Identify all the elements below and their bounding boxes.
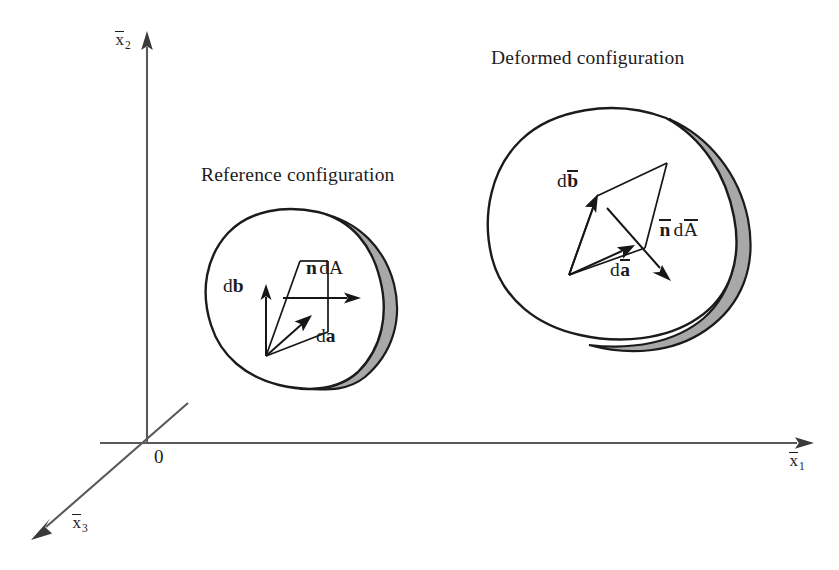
reference-configuration-caption: Reference configuration — [201, 165, 395, 185]
deformed-db-symbol: b — [567, 171, 579, 191]
axis-label-x3-subscript: 3 — [82, 522, 88, 534]
reference-da-differential: d — [316, 325, 326, 346]
deformed-body-outline — [488, 108, 737, 339]
deformed-vector-db-label: db — [557, 171, 579, 191]
reference-vector-db-label: db — [223, 276, 244, 296]
deformed-da-symbol: a — [620, 260, 631, 280]
reference-da-symbol: a — [326, 325, 336, 346]
axis-label-x2-subscript: 2 — [125, 39, 131, 51]
continuum-mechanics-figure: x2 x1 x3 0 Reference configuration Defor… — [0, 0, 839, 570]
deformed-vector-ndA-label: ndA — [659, 220, 699, 240]
axis-label-x2: x2 — [115, 31, 131, 51]
diagram-canvas — [0, 0, 839, 570]
axis-label-x3-base: x — [72, 514, 82, 531]
reference-configuration-body — [206, 209, 397, 389]
axis-x3-line — [46, 403, 188, 527]
deformed-area-differential: d — [674, 219, 684, 240]
reference-vector-ndA-label: ndA — [306, 258, 343, 278]
deformed-da-differential: d — [610, 259, 620, 280]
axis-x1-arrowhead — [795, 437, 814, 449]
deformed-area-symbol: A — [683, 220, 698, 240]
reference-vector-da-label: da — [316, 326, 336, 346]
deformed-normal-symbol: n — [659, 220, 671, 240]
deformed-vector-da-label: da — [610, 260, 631, 280]
deformed-configuration-caption: Deformed configuration — [491, 48, 684, 68]
reference-area-differential: dA — [319, 257, 343, 278]
axis-label-x1-base: x — [789, 452, 799, 469]
reference-db-differential: d — [223, 275, 233, 296]
axis-x3-arrowhead — [31, 519, 52, 540]
reference-db-symbol: b — [233, 275, 244, 296]
axis-x1 — [100, 437, 814, 449]
deformed-configuration-body — [488, 108, 751, 351]
axis-label-x1: x1 — [789, 452, 805, 472]
reference-normal-symbol: n — [306, 257, 317, 278]
origin-label: 0 — [154, 447, 164, 466]
axis-label-x2-base: x — [115, 31, 125, 48]
axis-x3 — [31, 403, 188, 540]
axis-label-x3: x3 — [72, 514, 88, 534]
axis-label-x1-subscript: 1 — [799, 460, 805, 472]
deformed-db-differential: d — [557, 170, 567, 191]
axis-x2 — [141, 31, 153, 443]
